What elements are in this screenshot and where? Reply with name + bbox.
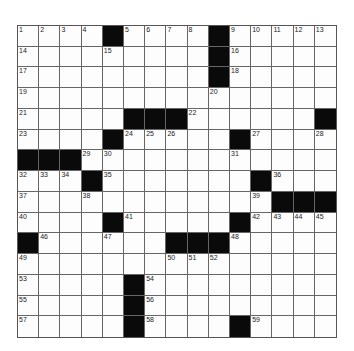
crossword-cell[interactable]: 48 bbox=[230, 233, 251, 254]
crossword-cell[interactable] bbox=[60, 88, 81, 109]
crossword-cell[interactable]: 20 bbox=[209, 88, 230, 109]
crossword-cell[interactable] bbox=[39, 130, 60, 151]
crossword-cell[interactable] bbox=[209, 296, 230, 317]
crossword-cell[interactable] bbox=[39, 192, 60, 213]
crossword-cell[interactable] bbox=[251, 88, 272, 109]
crossword-cell[interactable] bbox=[251, 233, 272, 254]
crossword-cell[interactable] bbox=[39, 296, 60, 317]
crossword-cell[interactable] bbox=[315, 296, 336, 317]
crossword-cell[interactable] bbox=[82, 130, 103, 151]
crossword-cell[interactable] bbox=[39, 213, 60, 234]
crossword-cell[interactable]: 43 bbox=[272, 213, 293, 234]
crossword-cell[interactable]: 13 bbox=[315, 26, 336, 47]
crossword-cell[interactable] bbox=[188, 88, 209, 109]
crossword-cell[interactable] bbox=[82, 109, 103, 130]
crossword-cell[interactable] bbox=[39, 67, 60, 88]
crossword-cell[interactable] bbox=[315, 47, 336, 68]
crossword-cell[interactable] bbox=[188, 47, 209, 68]
crossword-cell[interactable] bbox=[60, 47, 81, 68]
crossword-cell[interactable] bbox=[103, 296, 124, 317]
crossword-cell[interactable] bbox=[294, 254, 315, 275]
crossword-cell[interactable]: 40 bbox=[18, 213, 39, 234]
crossword-cell[interactable] bbox=[230, 171, 251, 192]
crossword-cell[interactable] bbox=[166, 213, 187, 234]
crossword-cell[interactable] bbox=[103, 109, 124, 130]
crossword-cell[interactable]: 54 bbox=[145, 275, 166, 296]
crossword-cell[interactable] bbox=[315, 67, 336, 88]
crossword-cell[interactable] bbox=[39, 88, 60, 109]
crossword-cell[interactable] bbox=[60, 67, 81, 88]
crossword-cell[interactable] bbox=[294, 171, 315, 192]
crossword-cell[interactable] bbox=[124, 150, 145, 171]
crossword-cell[interactable] bbox=[166, 192, 187, 213]
crossword-cell[interactable]: 19 bbox=[18, 88, 39, 109]
crossword-cell[interactable] bbox=[294, 88, 315, 109]
crossword-cell[interactable] bbox=[294, 275, 315, 296]
crossword-cell[interactable] bbox=[39, 109, 60, 130]
crossword-cell[interactable] bbox=[230, 275, 251, 296]
crossword-cell[interactable] bbox=[103, 67, 124, 88]
crossword-cell[interactable]: 23 bbox=[18, 130, 39, 151]
crossword-cell[interactable] bbox=[294, 109, 315, 130]
crossword-cell[interactable] bbox=[60, 296, 81, 317]
crossword-cell[interactable]: 29 bbox=[82, 150, 103, 171]
crossword-cell[interactable] bbox=[82, 316, 103, 337]
crossword-cell[interactable]: 33 bbox=[39, 171, 60, 192]
crossword-cell[interactable]: 18 bbox=[230, 67, 251, 88]
crossword-cell[interactable] bbox=[60, 254, 81, 275]
crossword-cell[interactable] bbox=[60, 316, 81, 337]
crossword-cell[interactable] bbox=[124, 233, 145, 254]
crossword-cell[interactable] bbox=[103, 254, 124, 275]
crossword-cell[interactable]: 4 bbox=[82, 26, 103, 47]
crossword-cell[interactable] bbox=[124, 47, 145, 68]
crossword-cell[interactable] bbox=[209, 275, 230, 296]
crossword-cell[interactable] bbox=[272, 130, 293, 151]
crossword-cell[interactable]: 37 bbox=[18, 192, 39, 213]
crossword-cell[interactable] bbox=[103, 275, 124, 296]
crossword-cell[interactable]: 8 bbox=[188, 26, 209, 47]
crossword-cell[interactable] bbox=[39, 275, 60, 296]
crossword-cell[interactable] bbox=[166, 67, 187, 88]
crossword-cell[interactable] bbox=[272, 150, 293, 171]
crossword-cell[interactable] bbox=[188, 150, 209, 171]
crossword-cell[interactable] bbox=[60, 233, 81, 254]
crossword-cell[interactable] bbox=[145, 67, 166, 88]
crossword-cell[interactable] bbox=[272, 296, 293, 317]
crossword-cell[interactable]: 21 bbox=[18, 109, 39, 130]
crossword-cell[interactable]: 47 bbox=[103, 233, 124, 254]
crossword-cell[interactable] bbox=[272, 316, 293, 337]
crossword-cell[interactable] bbox=[124, 88, 145, 109]
crossword-cell[interactable]: 35 bbox=[103, 171, 124, 192]
crossword-cell[interactable] bbox=[251, 67, 272, 88]
crossword-cell[interactable]: 16 bbox=[230, 47, 251, 68]
crossword-cell[interactable]: 51 bbox=[188, 254, 209, 275]
crossword-cell[interactable] bbox=[209, 316, 230, 337]
crossword-cell[interactable] bbox=[294, 296, 315, 317]
crossword-cell[interactable]: 59 bbox=[251, 316, 272, 337]
crossword-cell[interactable] bbox=[39, 316, 60, 337]
crossword-cell[interactable] bbox=[209, 109, 230, 130]
crossword-cell[interactable] bbox=[145, 192, 166, 213]
crossword-cell[interactable] bbox=[145, 254, 166, 275]
crossword-cell[interactable] bbox=[39, 254, 60, 275]
crossword-cell[interactable] bbox=[230, 296, 251, 317]
crossword-cell[interactable] bbox=[209, 150, 230, 171]
crossword-cell[interactable]: 42 bbox=[251, 213, 272, 234]
crossword-cell[interactable]: 9 bbox=[230, 26, 251, 47]
crossword-cell[interactable] bbox=[209, 192, 230, 213]
crossword-cell[interactable] bbox=[272, 233, 293, 254]
crossword-cell[interactable]: 32 bbox=[18, 171, 39, 192]
crossword-cell[interactable] bbox=[188, 130, 209, 151]
crossword-cell[interactable]: 22 bbox=[188, 109, 209, 130]
crossword-cell[interactable] bbox=[251, 296, 272, 317]
crossword-cell[interactable]: 10 bbox=[251, 26, 272, 47]
crossword-cell[interactable]: 55 bbox=[18, 296, 39, 317]
crossword-cell[interactable] bbox=[166, 88, 187, 109]
crossword-cell[interactable] bbox=[166, 47, 187, 68]
crossword-cell[interactable]: 56 bbox=[145, 296, 166, 317]
crossword-cell[interactable] bbox=[60, 109, 81, 130]
crossword-cell[interactable] bbox=[294, 67, 315, 88]
crossword-cell[interactable] bbox=[60, 130, 81, 151]
crossword-cell[interactable] bbox=[209, 213, 230, 234]
crossword-cell[interactable] bbox=[230, 109, 251, 130]
